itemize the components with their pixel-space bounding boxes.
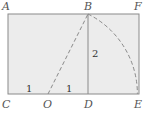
rectangle-acef — [8, 14, 139, 94]
label-d: D — [83, 98, 93, 111]
label-f: F — [133, 0, 142, 13]
length-co: 1 — [26, 83, 32, 94]
label-b: B — [83, 0, 92, 13]
label-e: E — [133, 98, 142, 111]
length-bd: 2 — [92, 48, 98, 59]
label-c: C — [2, 98, 11, 111]
label-o: O — [43, 98, 52, 111]
golden-rectangle-diagram: A B F C O D E 1 1 2 — [0, 0, 143, 122]
label-a: A — [1, 0, 10, 13]
length-od: 1 — [66, 83, 72, 94]
